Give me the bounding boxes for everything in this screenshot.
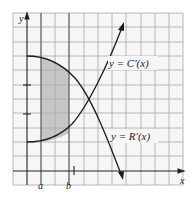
graph-figure: y x a b y = C′(x) y = R′(x) bbox=[0, 0, 194, 197]
a-tick-label: a bbox=[38, 180, 43, 191]
x-axis-label: x bbox=[179, 175, 185, 186]
c-curve-label: y = C′(x) bbox=[108, 57, 149, 70]
b-tick-label: b bbox=[66, 180, 71, 191]
y-axis-label: y bbox=[18, 13, 24, 24]
r-curve-label: y = R′(x) bbox=[110, 130, 150, 143]
